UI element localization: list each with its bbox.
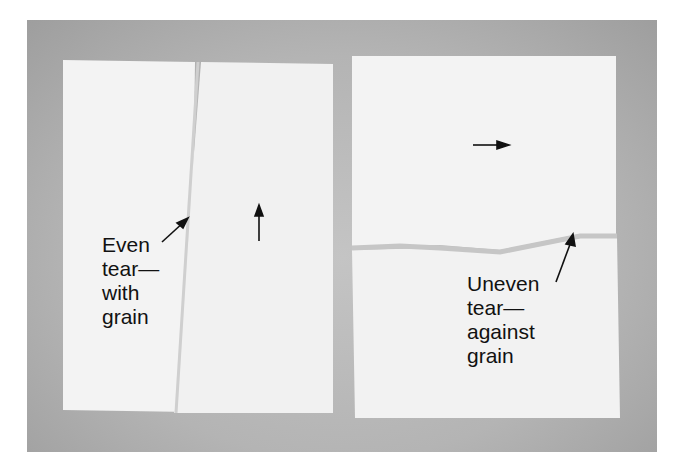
right-strip [174, 62, 333, 413]
top-piece [352, 56, 616, 250]
uneven-tear-label: Uneven tear— against grain [467, 272, 539, 368]
even-tear-label: Even tear— with grain [102, 233, 159, 329]
